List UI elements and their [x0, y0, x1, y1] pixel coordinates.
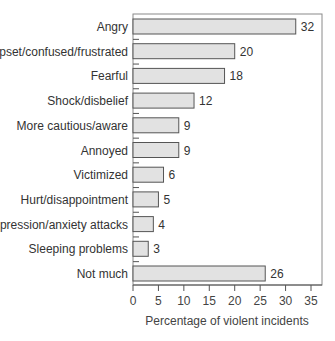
- category-label: Not much: [77, 267, 128, 281]
- data-label: 32: [301, 20, 315, 34]
- category-label: Victimized: [74, 168, 128, 182]
- x-tick-label: 25: [253, 294, 267, 308]
- bar: [133, 68, 225, 83]
- category-label: Sleeping problems: [29, 242, 128, 256]
- category-label: More cautious/aware: [17, 119, 129, 133]
- category-label: Shock/disbelief: [47, 94, 128, 108]
- bar: [133, 93, 194, 108]
- bar: [133, 19, 296, 34]
- x-tick-label: 5: [155, 294, 162, 308]
- category-label: Annoyed: [81, 144, 128, 158]
- bar: [133, 143, 179, 158]
- data-label: 9: [184, 119, 191, 133]
- x-tick-label: 15: [203, 294, 217, 308]
- data-label: 26: [270, 267, 284, 281]
- category-label: Upset/confused/frustrated: [0, 45, 128, 59]
- category-label: Depression/anxiety attacks: [0, 218, 128, 232]
- x-tick-label: 10: [177, 294, 191, 308]
- category-label: Angry: [97, 20, 128, 34]
- bar: [133, 217, 153, 232]
- bar: [133, 241, 148, 256]
- x-tick-label: 20: [228, 294, 242, 308]
- data-label: 9: [184, 144, 191, 158]
- data-label: 12: [199, 94, 213, 108]
- category-label: Hurt/disappointment: [21, 193, 129, 207]
- data-label: 4: [158, 218, 165, 232]
- bar: [133, 44, 235, 59]
- category-label: Fearful: [91, 69, 128, 83]
- data-label: 5: [163, 193, 170, 207]
- x-tick-label: 30: [279, 294, 293, 308]
- data-label: 18: [230, 69, 244, 83]
- bar-chart: Angry32Upset/confused/frustrated20Fearfu…: [0, 0, 335, 341]
- bar: [133, 167, 164, 182]
- bar: [133, 118, 179, 133]
- data-label: 3: [153, 242, 160, 256]
- x-tick-label: 0: [130, 294, 137, 308]
- x-tick-label: 35: [304, 294, 318, 308]
- x-axis-title: Percentage of violent incidents: [145, 314, 308, 328]
- data-label: 20: [240, 45, 254, 59]
- bar: [133, 192, 158, 207]
- bar: [133, 266, 265, 281]
- data-label: 6: [169, 168, 176, 182]
